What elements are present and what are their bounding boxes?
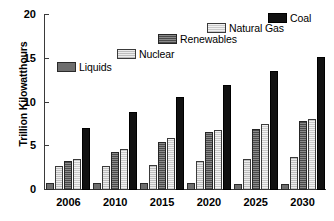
bar-liquids-2015: [140, 183, 148, 190]
bar-liquids-2020: [187, 183, 195, 190]
bar-renewables-2006: [64, 161, 72, 190]
bar-nuclear-2030: [290, 157, 298, 190]
y-tick-label: 0: [30, 182, 36, 197]
bar-renewables-2010: [111, 152, 119, 191]
bar-group-2006: [45, 15, 92, 190]
bar-coal-2015: [176, 97, 184, 190]
bar-coal-2020: [223, 85, 231, 190]
bar-renewables-2030: [299, 121, 307, 190]
bar-natural-gas-2030: [308, 119, 316, 190]
bar-renewables-2025: [252, 129, 260, 190]
bar-coal-2030: [317, 57, 325, 190]
bar-coal-2025: [270, 71, 278, 190]
y-tick-label: 10: [24, 95, 36, 110]
legend-label-coal: Coal: [290, 12, 311, 24]
bar-nuclear-2025: [243, 159, 251, 190]
bar-coal-2010: [129, 112, 137, 190]
bar-natural-gas-2010: [120, 149, 128, 190]
legend-label-renewables: Renewables: [180, 33, 237, 45]
y-tick-label: 20: [24, 7, 36, 22]
x-axis-label-2025: 2025: [232, 196, 279, 208]
legend-label-nuclear: Nuclear: [139, 48, 174, 60]
legend-item-liquids: Liquids: [57, 61, 112, 73]
bar-coal-2006: [82, 128, 90, 190]
legend-label-liquids: Liquids: [79, 61, 112, 73]
bar-renewables-2015: [158, 142, 166, 190]
legend-item-renewables: Renewables: [158, 33, 237, 45]
x-axis-label-2015: 2015: [139, 196, 186, 208]
bar-renewables-2020: [205, 132, 213, 190]
x-axis-label-2006: 2006: [45, 196, 92, 208]
bar-natural-gas-2025: [261, 124, 269, 190]
bar-natural-gas-2015: [167, 138, 175, 190]
legend-swatch-natural-gas: [207, 23, 226, 33]
y-tick-label: 15: [24, 51, 36, 66]
x-axis-label-2030: 2030: [279, 196, 326, 208]
bar-liquids-2025: [234, 184, 242, 190]
legend-swatch-coal: [268, 13, 287, 23]
bar-liquids-2030: [281, 184, 289, 190]
bar-group-2025: [232, 15, 279, 190]
bar-chart: Trillion Kilowatthours 05101520 20062010…: [0, 0, 334, 221]
legend-swatch-liquids: [57, 62, 76, 72]
bar-nuclear-2006: [55, 166, 63, 190]
bar-natural-gas-2020: [214, 130, 222, 190]
legend-item-coal: Coal: [268, 12, 311, 24]
legend-swatch-renewables: [158, 34, 177, 44]
legend-item-nuclear: Nuclear: [117, 48, 174, 60]
x-axis-label-2010: 2010: [92, 196, 139, 208]
legend-swatch-nuclear: [117, 49, 136, 59]
bar-nuclear-2015: [149, 165, 157, 190]
x-axis-label-2020: 2020: [185, 196, 232, 208]
bar-liquids-2010: [93, 183, 101, 190]
bar-liquids-2006: [46, 183, 54, 190]
y-tick-label: 5: [30, 138, 36, 153]
bar-group-2010: [92, 15, 139, 190]
x-axis-labels: 200620102015202020252030: [45, 196, 326, 208]
bar-nuclear-2010: [102, 166, 110, 190]
bar-natural-gas-2006: [73, 159, 81, 191]
bar-nuclear-2020: [196, 161, 204, 190]
bar-group-2030: [279, 15, 326, 190]
